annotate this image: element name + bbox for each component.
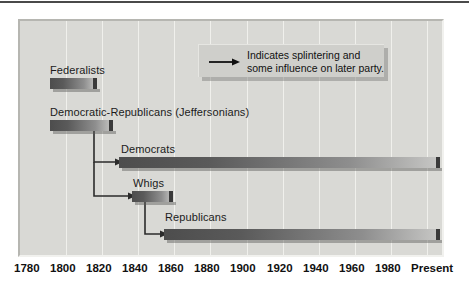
axis-tick-1780: 1780 <box>14 262 40 274</box>
bar-shadow <box>167 240 443 243</box>
bar-fill <box>50 78 97 89</box>
axis-tick-1980: 1980 <box>375 262 401 274</box>
bar-shadow <box>53 89 100 92</box>
bar-end-cap <box>93 78 97 89</box>
axis-tick-1820: 1820 <box>86 262 112 274</box>
bar-label-republicans: Republicans <box>165 211 227 223</box>
bar-republicans <box>164 229 440 240</box>
bar-shadow <box>122 168 443 171</box>
bar-whigs <box>132 191 173 202</box>
axis-tick-1900: 1900 <box>230 262 256 274</box>
bar-label-federalists: Federalists <box>50 64 105 76</box>
legend-text: Indicates splintering and some influence… <box>247 49 384 75</box>
right-arrow-icon <box>209 58 241 66</box>
legend-line-1: Indicates splintering and <box>247 49 384 62</box>
legend-box: Indicates splintering and some influence… <box>198 44 384 77</box>
axis-tick-1800: 1800 <box>50 262 76 274</box>
bar-end-cap <box>436 157 440 168</box>
chart-plot-area: Federalists Democratic-Republicans (Jeff… <box>20 21 442 255</box>
bar-fill <box>132 191 173 202</box>
axis-tick-1840: 1840 <box>122 262 148 274</box>
axis-tick-labels: 1780 1800 1820 1840 1860 1880 1900 1920 … <box>0 262 469 280</box>
bar-label-whigs: Whigs <box>133 177 164 189</box>
axis-tick-1940: 1940 <box>303 262 329 274</box>
bar-shadow <box>53 131 116 134</box>
bar-label-democrats: Democrats <box>121 143 175 155</box>
chart-frame: Federalists Democratic-Republicans (Jeff… <box>18 19 444 257</box>
bar-federalists <box>50 78 97 89</box>
axis-tick-1960: 1960 <box>339 262 365 274</box>
top-rule-divider <box>0 1 469 3</box>
bar-democratic-republicans <box>50 120 113 131</box>
bar-fill <box>119 157 440 168</box>
bar-fill <box>164 229 440 240</box>
bar-fill <box>50 120 113 131</box>
timeline-figure: Federalists Democratic-Republicans (Jeff… <box>0 0 469 290</box>
axis-tick-1860: 1860 <box>158 262 184 274</box>
axis-tick-1880: 1880 <box>194 262 220 274</box>
legend-line-2: some influence on later party. <box>247 62 384 75</box>
bar-label-democratic-republicans: Democratic-Republicans (Jeffersonians) <box>50 106 249 118</box>
axis-tick-1920: 1920 <box>267 262 293 274</box>
bar-end-cap <box>109 120 113 131</box>
bar-end-cap <box>436 229 440 240</box>
bar-shadow <box>135 202 176 205</box>
bar-end-cap <box>169 191 173 202</box>
bar-democrats <box>119 157 440 168</box>
axis-tick-present: Present <box>411 262 453 274</box>
